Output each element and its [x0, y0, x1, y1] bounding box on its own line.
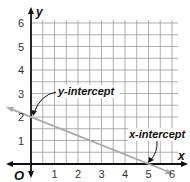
svg-text:2: 2 — [18, 111, 24, 123]
y-tick-labels: 1 2 3 4 5 6 — [18, 17, 24, 147]
svg-text:4: 4 — [122, 168, 128, 180]
x-axis-label: x — [177, 149, 186, 163]
svg-text:6: 6 — [18, 17, 24, 29]
svg-text:3: 3 — [98, 168, 104, 180]
svg-text:4: 4 — [18, 64, 24, 76]
y-axis-label: y — [35, 5, 44, 19]
svg-text:x-intercept: x-intercept — [128, 128, 187, 140]
svg-text:5: 5 — [145, 168, 151, 180]
y-intercept-annotation: y-intercept — [31, 85, 120, 116]
svg-text:3: 3 — [18, 88, 24, 100]
x-tick-labels: 1 2 3 4 5 6 — [51, 168, 175, 180]
svg-text:y-intercept: y-intercept — [57, 85, 116, 97]
svg-text:5: 5 — [18, 41, 24, 53]
coordinate-plane: 1 2 3 4 5 6 1 2 3 4 5 6 y x O y-intercep… — [0, 0, 190, 182]
svg-text:1: 1 — [18, 135, 24, 147]
svg-text:6: 6 — [169, 168, 175, 180]
origin-label: O — [14, 168, 24, 182]
svg-text:2: 2 — [75, 168, 81, 180]
svg-text:1: 1 — [51, 168, 57, 180]
